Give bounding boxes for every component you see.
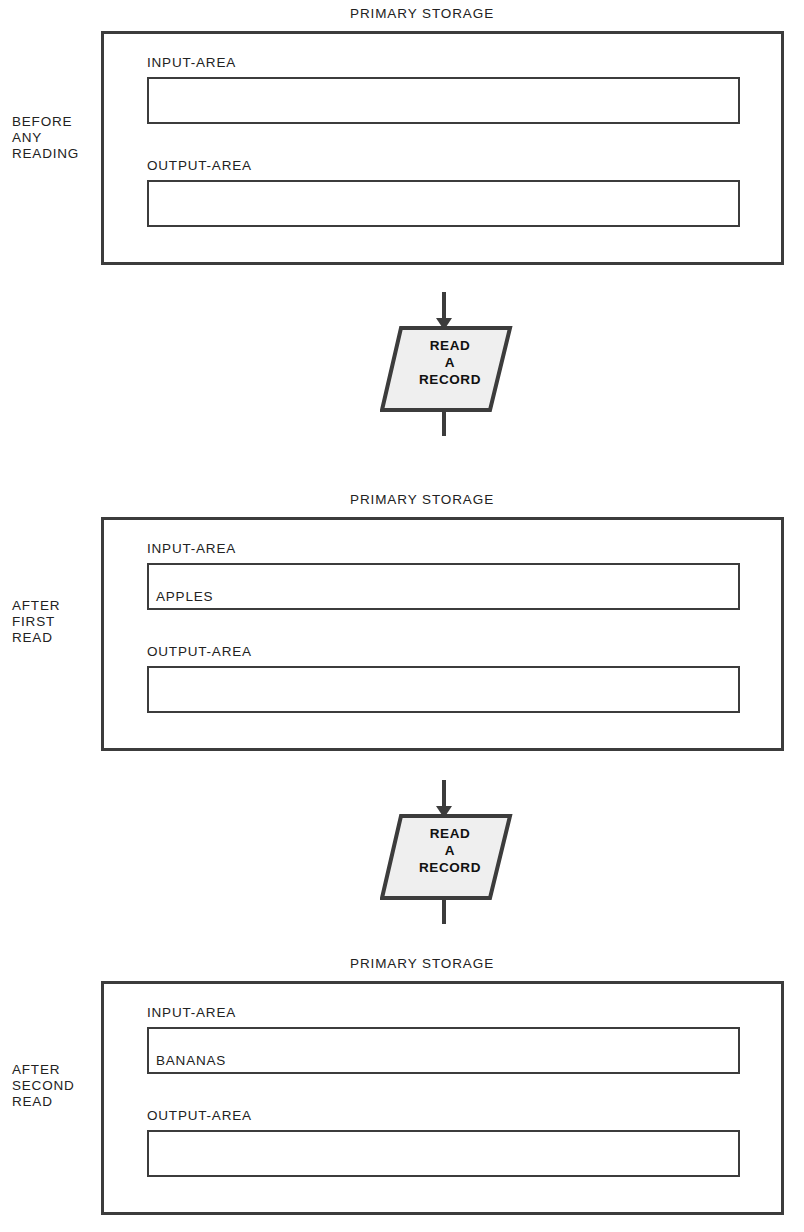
- output-area-box: [147, 666, 740, 713]
- input-area-label: INPUT-AREA: [147, 1005, 236, 1020]
- stage-label-line: BEFORE: [12, 114, 79, 130]
- stage-label-line: AFTER: [12, 1062, 75, 1078]
- diagram-canvas: PRIMARY STORAGE BEFORE ANY READING INPUT…: [0, 0, 804, 1232]
- operation-label-line: RECORD: [380, 860, 520, 876]
- input-area-value: BANANAS: [156, 1053, 226, 1068]
- stage-label-line: ANY: [12, 130, 79, 146]
- stage-label: BEFORE ANY READING: [12, 114, 79, 162]
- input-area-value: APPLES: [156, 589, 213, 604]
- input-area-box: BANANAS: [147, 1027, 740, 1074]
- input-area-label: INPUT-AREA: [147, 55, 236, 70]
- panel-title: PRIMARY STORAGE: [350, 956, 494, 971]
- input-area-label: INPUT-AREA: [147, 541, 236, 556]
- output-area-label: OUTPUT-AREA: [147, 644, 252, 659]
- stage-label-line: READ: [12, 630, 60, 646]
- read-a-record-operation-2: READ A RECORD: [380, 778, 520, 928]
- stage-label-line: AFTER: [12, 598, 60, 614]
- stage-label-line: FIRST: [12, 614, 60, 630]
- output-area-box: [147, 1130, 740, 1177]
- primary-storage-box: INPUT-AREA BANANAS OUTPUT-AREA: [101, 981, 784, 1215]
- operation-label-line: READ: [380, 826, 520, 842]
- operation-label-line: RECORD: [380, 372, 520, 388]
- stage-label-line: SECOND: [12, 1078, 75, 1094]
- stage-label: AFTER FIRST READ: [12, 598, 60, 646]
- output-area-label: OUTPUT-AREA: [147, 158, 252, 173]
- output-area-box: [147, 180, 740, 227]
- operation-label-line: A: [380, 843, 520, 859]
- primary-storage-box: INPUT-AREA OUTPUT-AREA: [101, 31, 784, 265]
- output-area-label: OUTPUT-AREA: [147, 1108, 252, 1123]
- primary-storage-box: INPUT-AREA APPLES OUTPUT-AREA: [101, 517, 784, 751]
- stage-label: AFTER SECOND READ: [12, 1062, 75, 1110]
- operation-label-line: A: [380, 355, 520, 371]
- operation-label-line: READ: [380, 338, 520, 354]
- read-a-record-operation-1: READ A RECORD: [380, 290, 520, 440]
- input-area-box: [147, 77, 740, 124]
- stage-label-line: READ: [12, 1094, 75, 1110]
- stage-label-line: READING: [12, 146, 79, 162]
- panel-title: PRIMARY STORAGE: [350, 6, 494, 21]
- panel-title: PRIMARY STORAGE: [350, 492, 494, 507]
- input-area-box: APPLES: [147, 563, 740, 610]
